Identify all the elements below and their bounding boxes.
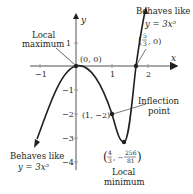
svg-text:(: ( (138, 34, 142, 47)
y-tick-label: −2 (62, 110, 74, 119)
root-coord: ( 5 3 , 0) (138, 32, 161, 47)
svg-text:(: ( (103, 150, 108, 164)
left-behavior-line2: y = 3x⁵ (17, 162, 50, 172)
x-axis-label: x (171, 53, 176, 63)
local-min-point (122, 140, 126, 144)
inflection-leader (113, 104, 146, 114)
x-tick-label: 2 (146, 70, 151, 79)
right-behavior-line1: Behaves like (136, 6, 190, 16)
local-min-label-line1: Local (112, 167, 136, 177)
local-max-leader (56, 48, 74, 64)
y-tick-label: −3 (62, 134, 74, 143)
local-max-coord: (0, 0) (80, 55, 102, 64)
y-tick-label: −1 (62, 86, 74, 95)
svg-text:, −: , − (113, 154, 123, 162)
svg-text:3: 3 (108, 157, 112, 164)
inflection-label-line2: point (148, 106, 171, 116)
left-behavior-line1: Behaves like (10, 151, 64, 161)
local-min-label-line2: minimum (104, 177, 145, 187)
curve-arrow-left (34, 139, 40, 148)
svg-text:, 0): , 0) (148, 37, 161, 46)
svg-text:256: 256 (125, 149, 137, 156)
y-axis-label: y (80, 15, 87, 25)
graph-figure: x y −1 1 2 1 −1 −2 −3 −4 Local maximum (… (0, 0, 193, 194)
y-tick-label: 1 (66, 39, 71, 48)
inflection-coord: (1, −2) (82, 111, 110, 120)
svg-text:): ) (137, 150, 142, 164)
local-max-label-line2: maximum (22, 39, 64, 49)
x-tick-label: −1 (35, 70, 47, 79)
local-max-point (74, 64, 78, 68)
svg-text:5: 5 (143, 32, 147, 39)
right-behavior-line2: y = 3x⁵ (144, 19, 177, 29)
local-min-coord: ( 4 3 , − 256 81 ) (103, 149, 142, 164)
svg-text:4: 4 (108, 149, 112, 156)
x-tick-label: 1 (110, 70, 115, 79)
root-point (134, 64, 138, 68)
svg-text:3: 3 (143, 40, 147, 47)
svg-text:81: 81 (127, 157, 135, 164)
